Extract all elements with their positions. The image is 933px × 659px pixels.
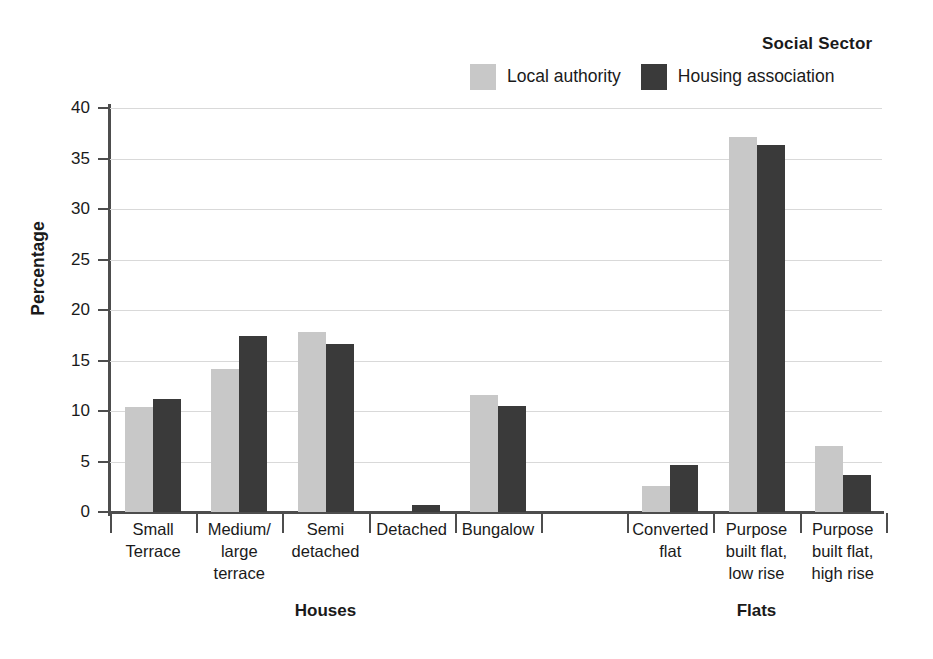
bar-housing-association-7	[757, 145, 785, 512]
category-label-line: Purpose	[800, 519, 886, 541]
y-tick-label-15: 15	[50, 351, 90, 371]
category-label-semi-detached: Semidetached	[282, 519, 368, 563]
chart-title: Social Sector	[762, 34, 872, 54]
bar-local-authority-7	[729, 137, 757, 512]
bar-local-authority-3	[298, 332, 326, 512]
legend-label-local-authority: Local authority	[507, 68, 621, 86]
legend-swatch-local-authority	[470, 64, 496, 90]
gridline-40	[110, 108, 882, 109]
y-tick-30	[98, 208, 109, 210]
category-label-line: detached	[282, 541, 368, 563]
category-label-line: Detached	[369, 519, 455, 541]
y-tick-25	[98, 259, 109, 261]
category-label-bungalow: Bungalow	[455, 519, 541, 541]
bar-local-authority-2	[211, 369, 239, 512]
category-label-medium-large-terrace: Medium/largeterrace	[196, 519, 282, 584]
y-tick-label-40: 40	[50, 98, 90, 118]
bar-local-authority-6	[642, 486, 670, 512]
category-label-line: Medium/	[196, 519, 282, 541]
group-label-houses: Houses	[110, 601, 541, 621]
category-label-line: low rise	[713, 563, 799, 585]
category-label-line: Terrace	[110, 541, 196, 563]
category-label-line: Converted	[627, 519, 713, 541]
category-label-line: built flat,	[800, 541, 886, 563]
category-boundary-tick	[886, 513, 888, 533]
y-tick-10	[98, 410, 109, 412]
legend-entry-housing-association: Housing association	[641, 64, 855, 90]
bar-housing-association-6	[670, 465, 698, 512]
bar-local-authority-5	[470, 395, 498, 512]
bar-housing-association-1	[153, 399, 181, 512]
y-tick-label-5: 5	[50, 452, 90, 472]
y-tick-label-20: 20	[50, 300, 90, 320]
category-label-line: Semi	[282, 519, 368, 541]
category-label-line: Purpose	[713, 519, 799, 541]
y-tick-15	[98, 360, 109, 362]
category-label-line: flat	[627, 541, 713, 563]
legend-entry-local-authority: Local authority	[470, 64, 641, 90]
category-label-detached: Detached	[369, 519, 455, 541]
category-label-purpose-built-flat-low-rise: Purposebuilt flat,low rise	[713, 519, 799, 584]
y-tick-35	[98, 158, 109, 160]
category-boundary-tick	[541, 513, 543, 533]
y-tick-label-35: 35	[50, 149, 90, 169]
bar-housing-association-8	[843, 475, 871, 512]
y-tick-40	[98, 107, 109, 109]
category-label-small-terrace: SmallTerrace	[110, 519, 196, 563]
legend-label-housing-association: Housing association	[678, 68, 835, 86]
category-label-line: high rise	[800, 563, 886, 585]
category-label-line: Small	[110, 519, 196, 541]
category-label-line: built flat,	[713, 541, 799, 563]
bar-housing-association-3	[326, 344, 354, 512]
y-tick-label-10: 10	[50, 401, 90, 421]
y-tick-5	[98, 461, 109, 463]
y-tick-label-30: 30	[50, 199, 90, 219]
legend-swatch-housing-association	[641, 64, 667, 90]
bar-local-authority-8	[815, 446, 843, 512]
category-label-line: terrace	[196, 563, 282, 585]
y-axis-tick-labels: 0510152025303540	[46, 0, 90, 659]
y-tick-label-25: 25	[50, 250, 90, 270]
category-label-purpose-built-flat-high-rise: Purposebuilt flat,high rise	[800, 519, 886, 584]
bar-housing-association-4	[412, 505, 440, 512]
chart-legend: Local authority Housing association	[470, 64, 854, 90]
bar-local-authority-1	[125, 407, 153, 512]
y-tick-0	[98, 511, 109, 513]
plot-area	[110, 108, 882, 512]
group-label-flats: Flats	[627, 601, 886, 621]
bar-housing-association-2	[239, 336, 267, 512]
y-tick-20	[98, 309, 109, 311]
category-label-line: Bungalow	[455, 519, 541, 541]
bar-housing-association-5	[498, 406, 526, 512]
category-label-converted-flat: Convertedflat	[627, 519, 713, 563]
category-label-line: large	[196, 541, 282, 563]
